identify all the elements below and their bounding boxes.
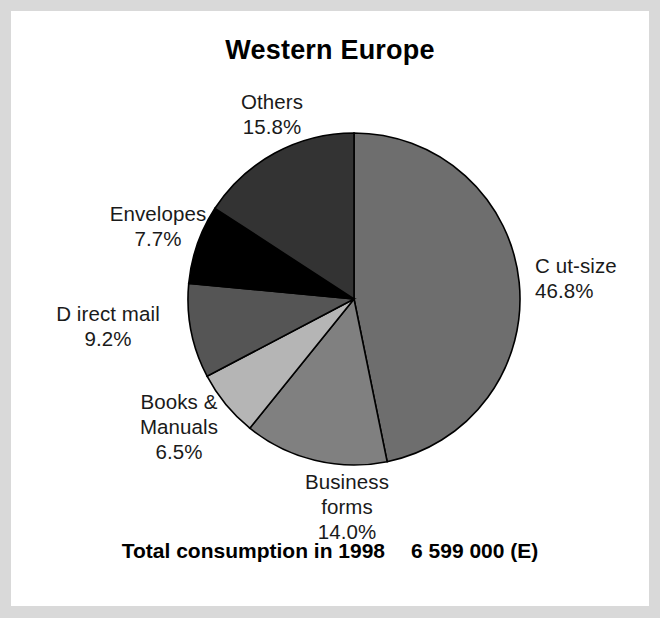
slice-label-envelopes: Envelopes 7.7% [73,201,243,251]
slice-label-cut-size: C ut-size 46.8% [535,253,660,303]
page-frame-right [649,0,660,618]
slice-label-books-manuals: Books & Manuals 6.5% [99,389,259,464]
page-frame-left [0,0,11,618]
chart-canvas: Western Europe Others 15.8% Envelopes 7.… [11,11,649,606]
total-consumption-line: Total consumption in 19986 599 000 (E) [11,539,649,563]
slice-label-direct-mail: D irect mail 9.2% [19,301,197,351]
page-frame-bottom [0,606,660,618]
slice-label-others: Others 15.8% [197,89,347,139]
page-frame-top [0,0,660,11]
total-consumption-value: 6 599 000 (E) [411,539,538,562]
slice-label-business-forms: Business forms 14.0% [267,469,427,544]
total-consumption-label: Total consumption in 1998 [122,539,385,562]
pie-slice-cut-size [354,133,520,462]
pie-chart-figure: Western Europe Others 15.8% Envelopes 7.… [0,0,660,618]
